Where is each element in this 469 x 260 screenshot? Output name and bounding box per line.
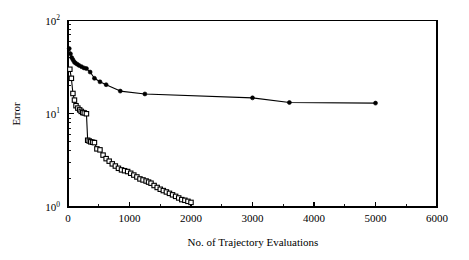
data-point-square (92, 140, 96, 144)
data-point-circle (118, 89, 122, 93)
data-point-square (189, 200, 193, 204)
data-point-circle (143, 92, 147, 96)
data-series (67, 47, 377, 205)
data-point-circle (68, 52, 72, 56)
chart-figure: 0100020003000400050006000100101102 No. o… (0, 0, 469, 260)
x-tick-label: 4000 (303, 212, 326, 224)
data-point-square (84, 112, 88, 116)
x-tick-label: 5000 (365, 212, 388, 224)
data-point-circle (88, 70, 92, 74)
x-tick-label: 2000 (180, 212, 203, 224)
y-tick-label: 100 (45, 200, 60, 214)
plot-border (68, 21, 437, 208)
axis-tick-labels: 0100020003000400050006000100101102 (45, 13, 448, 224)
plot-frame (68, 21, 437, 208)
data-point-square (69, 76, 73, 80)
data-point-circle (104, 83, 108, 87)
data-point-square (68, 67, 72, 71)
series-line-filled-circle (69, 49, 375, 104)
x-axis-title: No. of Trajectory Evaluations (188, 236, 319, 248)
x-tick-label: 6000 (426, 212, 449, 224)
axis-ticks (68, 21, 437, 208)
series-line-open-square (70, 69, 191, 202)
y-tick-label: 102 (45, 13, 60, 27)
y-tick-label: 101 (45, 106, 60, 120)
y-axis-title: Error (10, 102, 22, 126)
x-tick-label: 0 (65, 212, 71, 224)
data-point-circle (92, 76, 96, 80)
data-point-circle (251, 96, 255, 100)
axis-titles: No. of Trajectory Evaluations Error (10, 102, 318, 248)
x-tick-label: 3000 (242, 212, 265, 224)
chart-svg: 0100020003000400050006000100101102 No. o… (0, 0, 469, 260)
data-point-circle (84, 67, 88, 71)
data-point-circle (98, 80, 102, 84)
data-point-square (71, 91, 75, 95)
data-point-square (72, 98, 76, 102)
data-point-circle (374, 101, 378, 105)
data-point-circle (67, 47, 71, 51)
data-point-square (98, 148, 102, 152)
data-point-circle (287, 101, 291, 105)
x-tick-label: 1000 (119, 212, 142, 224)
